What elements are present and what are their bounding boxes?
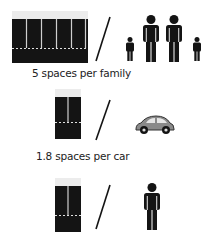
car-icon [134, 114, 176, 136]
parking-block-family [12, 11, 88, 63]
person-icon [142, 183, 162, 231]
caption-car: 1.8 spaces per car [36, 150, 129, 162]
divider-slash-2 [94, 99, 112, 141]
parking-block-person [55, 178, 81, 232]
family-icon [125, 15, 210, 63]
parking-block-car [55, 89, 81, 139]
caption-family: 5 spaces per family [32, 67, 131, 79]
divider-slash-1 [94, 16, 112, 62]
divider-slash-3 [94, 184, 112, 230]
